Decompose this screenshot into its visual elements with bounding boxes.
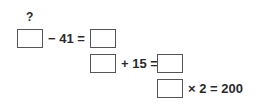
operation-add-15: + 15 = — [121, 54, 158, 73]
answer-box-start[interactable] — [17, 29, 43, 48]
operation-multiply-2-result: × 2 = 200 — [188, 79, 243, 98]
answer-box-after-subtract[interactable] — [90, 29, 116, 48]
answer-box-row3-start[interactable] — [157, 79, 183, 98]
answer-box-after-add[interactable] — [157, 54, 183, 73]
unknown-marker: ? — [26, 11, 33, 23]
operation-subtract-41: − 41 = — [48, 29, 85, 48]
answer-box-row2-start[interactable] — [90, 54, 116, 73]
